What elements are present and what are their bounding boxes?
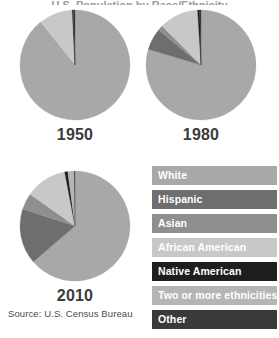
- source-note: Source: U.S. Census Bureau: [8, 308, 133, 319]
- legend-item-label: Other: [152, 314, 187, 325]
- pie-slices-2010: [19, 170, 131, 282]
- legend-item-label: White: [152, 170, 187, 181]
- legend-item-african-american[interactable]: African American: [152, 238, 277, 257]
- pie-year-label-1950: 1950: [15, 126, 135, 144]
- pie-chart-2010: [19, 170, 131, 282]
- legend: WhiteHispanicAsianAfrican AmericanNative…: [152, 166, 277, 334]
- chart-canvas: U.S. Population by Race/Ethnicity 195019…: [0, 0, 279, 338]
- legend-item-label: Asian: [152, 218, 187, 229]
- legend-item-label: African American: [152, 242, 246, 253]
- pie-slices-1980: [145, 9, 257, 121]
- legend-item-label: Native American: [152, 266, 241, 277]
- clipped-title: U.S. Population by Race/Ethnicity: [0, 0, 279, 5]
- legend-item-asian[interactable]: Asian: [152, 214, 277, 233]
- legend-item-native-american[interactable]: Native American: [152, 262, 277, 281]
- pie-chart-1980: [145, 9, 257, 121]
- legend-item-other[interactable]: Other: [152, 310, 277, 329]
- legend-item-label: Hispanic: [152, 194, 203, 205]
- legend-item-two-or-more-ethnicities[interactable]: Two or more ethnicities: [152, 286, 277, 305]
- legend-item-label: Two or more ethnicities: [152, 290, 277, 301]
- pie-slices-1950: [19, 9, 131, 121]
- pie-chart-1950: [19, 9, 131, 121]
- legend-item-hispanic[interactable]: Hispanic: [152, 190, 277, 209]
- pie-year-label-1980: 1980: [141, 126, 261, 144]
- pie-year-label-2010: 2010: [15, 287, 135, 305]
- legend-item-white[interactable]: White: [152, 166, 277, 185]
